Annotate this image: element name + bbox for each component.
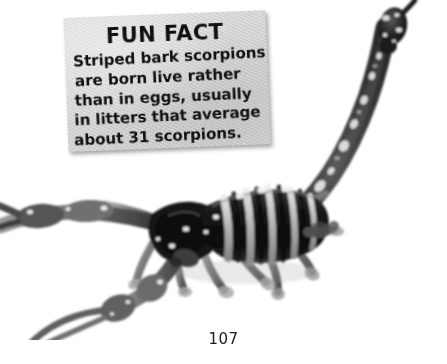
fun-fact-card: FUN FACT Striped bark scorpions are born…	[64, 10, 271, 152]
fun-fact-body: Striped bark scorpions are born live rat…	[72, 45, 263, 151]
book-page: FUN FACT Striped bark scorpions are born…	[0, 0, 447, 364]
page-number: 107	[0, 330, 447, 348]
